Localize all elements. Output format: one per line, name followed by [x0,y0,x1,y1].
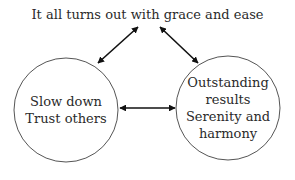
diagram-canvas: It all turns out with grace and ease Slo… [0,0,295,180]
arrow-right-top [160,27,198,63]
arrow-left-top [98,27,138,63]
top-node-label: It all turns out with grace and ease [0,6,295,23]
right-node-label: Outstanding results Serenity and harmony [176,74,280,142]
left-node-line: Slow down [14,93,118,110]
left-node-label: Slow down Trust others [14,93,118,127]
right-node-line: Outstanding [176,74,280,91]
right-node-line: results [176,91,280,108]
right-node-line: harmony [176,125,280,142]
right-node-line: Serenity and [176,108,280,125]
left-node-line: Trust others [14,110,118,127]
